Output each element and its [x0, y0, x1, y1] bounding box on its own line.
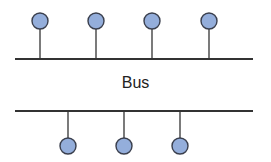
node-icon: [88, 13, 104, 29]
node-icon: [60, 138, 76, 154]
node-icon: [116, 138, 132, 154]
node-icon: [32, 13, 48, 29]
bus-topology-diagram: Bus: [0, 0, 271, 162]
bus-label: Bus: [0, 74, 271, 92]
node-icon: [172, 138, 188, 154]
node-icon: [144, 13, 160, 29]
node-icon: [201, 13, 217, 29]
